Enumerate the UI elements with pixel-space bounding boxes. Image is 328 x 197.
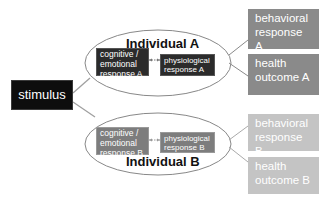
bidirectional-arrow-a [149,59,160,62]
cognitive-emotional-response-a: cognitive / emotional response A [96,48,149,76]
line: response B [255,131,312,159]
stimulus-label: stimulus [18,88,66,103]
line: physiological [164,56,211,65]
line: outcome B [255,174,312,188]
individual-b-title: Individual B [126,154,200,169]
line: response A [100,70,145,80]
line: behavioral [255,117,312,131]
stimulus-box: stimulus [11,80,73,110]
health-outcome-b: health outcome B [248,157,319,194]
behavioral-response-b: behavioral response B [248,114,319,151]
bidirectional-arrow-b [149,139,160,142]
line: outcome A [255,71,312,85]
cognitive-emotional-response-b: cognitive / emotional response B [96,127,149,155]
behavioral-response-a: behavioral response A [248,9,319,49]
line: response B [164,143,211,152]
line: health [255,160,312,174]
health-outcome-a: health outcome A [248,54,319,95]
line: behavioral [255,12,312,26]
a-to-health-connector [229,63,248,76]
a-to-behavioral-connector [229,40,248,55]
physiological-response-b: physiological response B [160,132,215,153]
b-to-behavioral-connector [229,126,248,140]
line: response A [255,26,312,54]
line: physiological [164,134,211,143]
line: response A [164,65,211,74]
stimulus-to-a-connector [73,78,90,93]
physiological-response-a: physiological response A [160,54,215,76]
stimulus-to-b-connector [73,102,95,117]
line: health [255,57,312,71]
b-to-health-connector [229,147,248,162]
